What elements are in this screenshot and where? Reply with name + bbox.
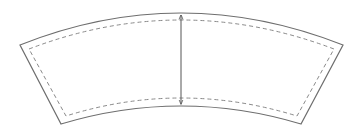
diagram-canvas bbox=[0, 0, 363, 130]
cup-sleeve-template-diagram bbox=[0, 0, 363, 130]
